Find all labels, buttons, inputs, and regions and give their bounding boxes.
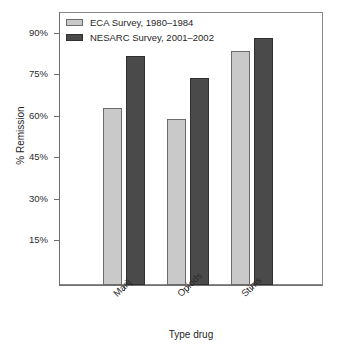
- legend-item-nesarc: NESARC Survey, 2001–2002: [66, 31, 241, 44]
- chart-figure: 90% 75% 60% 45% 30% 15% Marij Opiods Sti…: [0, 0, 338, 353]
- legend-label-nesarc: NESARC Survey, 2001–2002: [90, 32, 214, 43]
- y-tick-label-15: 15%: [8, 235, 48, 245]
- legend-item-eca: ECA Survey, 1980–1984: [66, 16, 241, 29]
- legend-label-eca: ECA Survey, 1980–1984: [90, 17, 193, 28]
- bar-marij-nesarc: [126, 56, 145, 285]
- y-axis-title: % Remission: [15, 91, 26, 181]
- bar-stims-nesarc: [254, 38, 273, 285]
- legend-swatch-nesarc-icon: [66, 34, 83, 41]
- y-axis-line: [59, 12, 60, 286]
- bar-stims-eca: [231, 51, 250, 285]
- y-tick-label-90: 90%: [8, 28, 48, 38]
- y-tick-45: [54, 157, 60, 158]
- y-tick-60: [54, 116, 60, 117]
- bar-marij-eca: [103, 108, 122, 285]
- y-tick-label-75: 75%: [8, 69, 48, 79]
- bar-opiods-nesarc: [190, 78, 209, 285]
- x-axis-title: Type drug: [59, 329, 323, 340]
- chart-legend: ECA Survey, 1980–1984 NESARC Survey, 200…: [66, 16, 241, 46]
- y-tick-90: [54, 33, 60, 34]
- y-tick-75: [54, 74, 60, 75]
- bar-opiods-eca: [167, 119, 186, 285]
- y-tick-15: [54, 240, 60, 241]
- y-tick-label-30: 30%: [8, 194, 48, 204]
- legend-swatch-eca-icon: [66, 19, 83, 26]
- y-tick-30: [54, 199, 60, 200]
